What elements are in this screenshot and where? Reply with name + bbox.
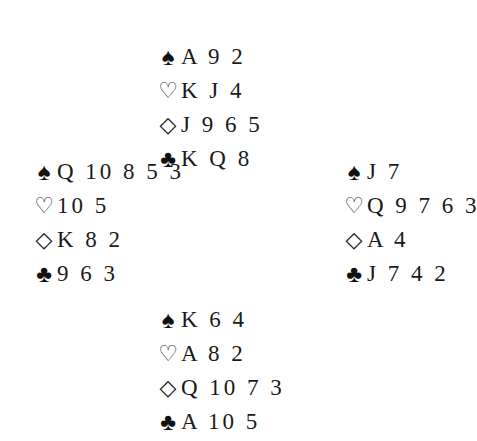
west-clubs-cards: 9 6 3 bbox=[57, 257, 118, 291]
hand-west: ♠ Q 10 8 5 3 ♡ 10 5 ◇ K 8 2 ♣ 9 6 3 bbox=[32, 155, 184, 291]
east-spades-cards: J 7 bbox=[367, 155, 402, 189]
west-diamonds-row: ◇ K 8 2 bbox=[32, 223, 184, 257]
south-clubs-cards: A 10 5 bbox=[181, 405, 260, 439]
east-diamonds-cards: A 4 bbox=[367, 223, 409, 257]
club-icon: ♣ bbox=[156, 405, 180, 439]
diamond-icon: ◇ bbox=[32, 223, 56, 257]
hand-east: ♠ J 7 ♡ Q 9 7 6 3 ◇ A 4 ♣ J 7 4 2 bbox=[342, 155, 477, 291]
west-spades-cards: Q 10 8 5 3 bbox=[57, 155, 184, 189]
north-diamonds-cards: J 9 6 5 bbox=[181, 108, 263, 142]
spade-icon: ♠ bbox=[32, 155, 56, 189]
west-clubs-row: ♣ 9 6 3 bbox=[32, 257, 184, 291]
south-spades-cards: K 6 4 bbox=[181, 303, 247, 337]
east-clubs-row: ♣ J 7 4 2 bbox=[342, 257, 477, 291]
west-hearts-cards: 10 5 bbox=[57, 189, 109, 223]
heart-icon: ♡ bbox=[156, 337, 180, 371]
diamond-icon: ◇ bbox=[156, 108, 180, 142]
hand-south: ♠ K 6 4 ♡ A 8 2 ◇ Q 10 7 3 ♣ A 10 5 bbox=[156, 303, 285, 439]
heart-icon: ♡ bbox=[342, 189, 366, 223]
east-diamonds-row: ◇ A 4 bbox=[342, 223, 477, 257]
west-diamonds-cards: K 8 2 bbox=[57, 223, 123, 257]
north-spades-row: ♠ A 9 2 bbox=[156, 40, 263, 74]
south-hearts-cards: A 8 2 bbox=[181, 337, 246, 371]
east-clubs-cards: J 7 4 2 bbox=[367, 257, 449, 291]
north-clubs-cards: K Q 8 bbox=[181, 142, 252, 176]
north-hearts-cards: K J 4 bbox=[181, 74, 245, 108]
south-hearts-row: ♡ A 8 2 bbox=[156, 337, 285, 371]
east-hearts-row: ♡ Q 9 7 6 3 bbox=[342, 189, 477, 223]
south-diamonds-cards: Q 10 7 3 bbox=[181, 371, 285, 405]
north-diamonds-row: ◇ J 9 6 5 bbox=[156, 108, 263, 142]
north-spades-cards: A 9 2 bbox=[181, 40, 246, 74]
east-spades-row: ♠ J 7 bbox=[342, 155, 477, 189]
diamond-icon: ◇ bbox=[156, 371, 180, 405]
west-spades-row: ♠ Q 10 8 5 3 bbox=[32, 155, 184, 189]
east-hearts-cards: Q 9 7 6 3 bbox=[367, 189, 477, 223]
west-hearts-row: ♡ 10 5 bbox=[32, 189, 184, 223]
south-clubs-row: ♣ A 10 5 bbox=[156, 405, 285, 439]
club-icon: ♣ bbox=[342, 257, 366, 291]
spade-icon: ♠ bbox=[342, 155, 366, 189]
spade-icon: ♠ bbox=[156, 40, 180, 74]
club-icon: ♣ bbox=[32, 257, 56, 291]
diamond-icon: ◇ bbox=[342, 223, 366, 257]
south-spades-row: ♠ K 6 4 bbox=[156, 303, 285, 337]
heart-icon: ♡ bbox=[156, 74, 180, 108]
south-diamonds-row: ◇ Q 10 7 3 bbox=[156, 371, 285, 405]
heart-icon: ♡ bbox=[32, 189, 56, 223]
spade-icon: ♠ bbox=[156, 303, 180, 337]
north-hearts-row: ♡ K J 4 bbox=[156, 74, 263, 108]
